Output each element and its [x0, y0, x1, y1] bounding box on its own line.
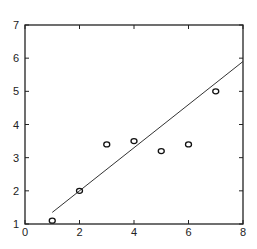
y-tick-label: 3	[13, 152, 19, 164]
data-point-circle	[186, 142, 192, 147]
y-tick-label: 2	[13, 185, 19, 197]
x-tick-label: 4	[131, 226, 137, 238]
data-point-circle	[49, 218, 55, 223]
fit-line	[52, 61, 243, 212]
y-tick-label: 6	[13, 52, 19, 64]
x-tick-label: 0	[22, 226, 28, 238]
y-tick-label: 5	[13, 85, 19, 97]
regression-line	[52, 61, 243, 212]
tick-labels: 024681234567	[13, 19, 246, 238]
y-tick-label: 1	[13, 218, 19, 230]
plot-frame	[25, 25, 243, 224]
data-point-circle	[131, 139, 137, 144]
x-tick-label: 8	[240, 226, 246, 238]
data-points	[49, 89, 219, 223]
x-tick-label: 2	[76, 226, 82, 238]
data-point-circle	[213, 89, 219, 94]
data-point-circle	[104, 142, 110, 147]
axis-ticks	[25, 25, 243, 224]
x-tick-label: 6	[185, 226, 191, 238]
y-tick-label: 7	[13, 19, 19, 31]
data-point-circle	[158, 149, 164, 154]
y-tick-label: 4	[13, 119, 19, 131]
scatter-chart: 024681234567	[0, 0, 257, 249]
